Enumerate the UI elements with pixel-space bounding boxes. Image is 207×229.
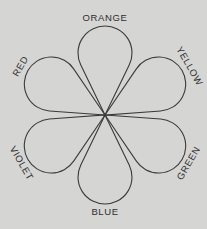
petal-yellow [105,57,186,115]
label-red: RED [10,54,30,78]
color-petal-diagram: ORANGEYELLOWGREENBLUEVIOLETRED [0,0,207,229]
petal-blue [78,115,132,204]
petals-group [24,26,185,204]
label-green: GREEN [174,144,202,181]
petal-red [24,57,105,115]
label-orange: ORANGE [83,12,128,23]
label-blue: BLUE [91,206,118,217]
petal-green [105,115,186,173]
petal-violet [24,115,105,173]
labels-group: ORANGEYELLOWGREENBLUEVIOLETRED [8,12,206,217]
label-violet: VIOLET [8,144,36,182]
diagram-canvas: ORANGEYELLOWGREENBLUEVIOLETRED [0,0,207,229]
petal-orange [78,26,132,115]
